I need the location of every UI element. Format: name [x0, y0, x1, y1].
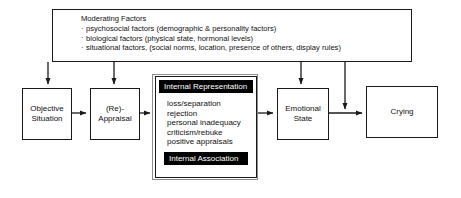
objective-situation-label-line2: Situation [30, 114, 63, 124]
objective-situation-label-line1: Objective [30, 104, 63, 114]
internal-representation-item: rejection [167, 109, 253, 119]
internal-representation-item: personal inadequacy [167, 118, 253, 128]
emotional-state-label-line2: State [285, 114, 321, 124]
objective-situation-node: Objective Situation [22, 88, 72, 140]
moderating-factor-item: biological factors (physical state, horm… [81, 34, 405, 44]
crying-label: Crying [390, 107, 413, 117]
reappraisal-label-line1: (Re)- [98, 104, 131, 114]
crying-model-diagram: Moderating Factors psychosocial factors … [0, 0, 461, 198]
internal-representation-list: loss/separation rejection personal inade… [159, 93, 253, 152]
crying-node: Crying [366, 86, 438, 138]
reappraisal-node: (Re)- Appraisal [90, 88, 140, 140]
reappraisal-label-line2: Appraisal [98, 114, 131, 124]
internal-representation-header: Internal Representation [159, 80, 253, 93]
moderating-factor-item: situational factors, (social norms, loca… [81, 43, 405, 53]
moderating-factor-item: psychosocial factors (demographic & pers… [81, 24, 405, 34]
internal-representation-item: criticism/rebuke [167, 128, 253, 138]
moderating-factors-box: Moderating Factors psychosocial factors … [52, 9, 412, 62]
emotional-state-node: Emotional State [277, 88, 329, 140]
internal-association-footer: Internal Association [164, 152, 248, 165]
emotional-state-label-line1: Emotional [285, 104, 321, 114]
moderating-factors-title: Moderating Factors [81, 14, 405, 24]
internal-representation-item: positive appraisals [167, 137, 253, 147]
internal-representation-node: Internal Representation loss/separation … [155, 76, 257, 178]
internal-representation-item: loss/separation [167, 99, 253, 109]
